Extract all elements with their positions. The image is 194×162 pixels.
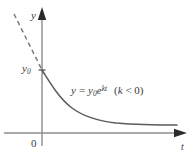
y-axis-arrowhead-icon — [38, 7, 46, 20]
equation-lhs: y — [71, 84, 76, 96]
equation-annotation: y=y0ekt(k < 0) — [71, 85, 144, 98]
exponential-decay-figure: y t 0 y0 y=y0ekt(k < 0) — [0, 0, 194, 162]
y-intercept-subscript: 0 — [27, 67, 31, 76]
origin-label: 0 — [31, 138, 37, 149]
y-intercept-label: y0 — [22, 63, 31, 76]
condition-operator: < — [123, 84, 135, 96]
equation-exponent: kt — [102, 84, 107, 93]
t-axis-label: t — [181, 142, 184, 152]
plot-canvas — [0, 0, 194, 162]
y-axis-label: y — [31, 10, 36, 21]
equation-condition: (k < 0) — [114, 84, 143, 96]
t-axis-arrowhead-icon — [174, 129, 187, 137]
equation-equals: = — [79, 84, 85, 96]
condition-close-paren: ) — [140, 84, 144, 96]
